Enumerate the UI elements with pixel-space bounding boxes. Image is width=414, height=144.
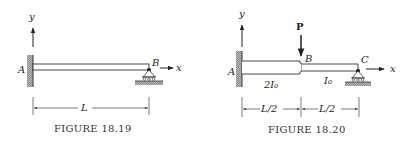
fixed-wall-support — [236, 51, 242, 87]
beam-segment-bc — [302, 64, 358, 71]
x-axis-label: x — [176, 62, 182, 73]
inertia-right-label: I₀ — [323, 75, 332, 86]
diagram-canvas: y A B x L — [0, 0, 414, 144]
roller-support — [135, 68, 163, 85]
length-left-label: L/2 — [260, 103, 277, 114]
length-label: L — [80, 102, 88, 113]
point-b-label: B — [304, 53, 312, 64]
y-axis: y — [28, 11, 35, 47]
load-label: P — [296, 21, 304, 32]
beam — [33, 64, 149, 70]
figure-caption: FIGURE 18.20 — [268, 124, 346, 135]
y-axis-label: y — [28, 11, 35, 22]
point-load-p: P — [296, 21, 304, 56]
beam-segment-ab — [242, 61, 302, 74]
point-b-label: B — [151, 57, 159, 68]
figure-18-19: y A B x L — [17, 11, 182, 134]
point-a-label: A — [227, 66, 235, 77]
length-right-label: L/2 — [318, 103, 335, 114]
dimension-l: L — [33, 97, 149, 115]
x-axis: x — [366, 63, 396, 74]
inertia-left-label: 2I₀ — [263, 79, 278, 90]
x-axis: x — [160, 62, 182, 73]
y-axis-label: y — [238, 8, 245, 19]
fixed-wall-support — [27, 55, 33, 87]
dimension-half-lengths: L/2 L/2 — [242, 97, 359, 117]
point-a-label: A — [17, 64, 25, 75]
point-c-label: C — [361, 54, 369, 65]
figure-caption: FIGURE 18.19 — [54, 123, 132, 134]
figure-18-20: y A P B 2I₀ I₀ C x — [227, 8, 396, 135]
x-axis-label: x — [390, 63, 396, 74]
roller-support — [345, 69, 371, 86]
y-axis: y — [238, 8, 245, 47]
